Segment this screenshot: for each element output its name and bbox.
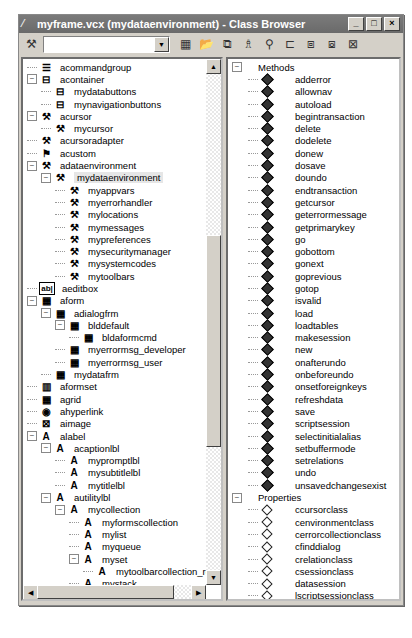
member-item[interactable]: selectinitialalias bbox=[228, 430, 399, 442]
copy-icon[interactable]: ⧈ bbox=[302, 35, 320, 53]
left-vertical-scrollbar[interactable]: ▲ ▼ bbox=[206, 59, 221, 585]
tree-item[interactable]: Amyformscollection bbox=[23, 516, 205, 528]
tree-item[interactable]: −⚒adataenvironment bbox=[23, 159, 205, 171]
member-item[interactable]: cerrorcollectionclass bbox=[228, 528, 399, 540]
member-item[interactable]: gonext bbox=[228, 258, 399, 270]
maximize-button[interactable]: □ bbox=[366, 17, 382, 31]
tree-item[interactable]: −⊟acontainer bbox=[23, 73, 205, 85]
redefine-icon[interactable]: ⊏ bbox=[281, 35, 299, 53]
member-item[interactable]: go bbox=[228, 233, 399, 245]
scroll-up-button[interactable]: ▲ bbox=[206, 59, 221, 74]
expand-toggle-icon[interactable]: − bbox=[55, 320, 65, 330]
tree-item[interactable]: Amytitlelbl bbox=[23, 479, 205, 491]
member-item[interactable]: goprevious bbox=[228, 270, 399, 282]
member-item[interactable]: datasession bbox=[228, 577, 399, 589]
tree-item[interactable]: ⊟mynavigationbuttons bbox=[23, 98, 205, 110]
tree-item[interactable]: Amylist bbox=[23, 528, 205, 540]
tree-item[interactable]: Amyqueue bbox=[23, 541, 205, 553]
expand-toggle-icon[interactable]: − bbox=[41, 173, 51, 183]
tree-item[interactable]: −▦adialogfrm bbox=[23, 307, 205, 319]
expand-toggle-icon[interactable]: − bbox=[69, 554, 79, 564]
member-item[interactable]: isvalid bbox=[228, 295, 399, 307]
tree-item[interactable]: ⚒mytoolbars bbox=[23, 270, 205, 282]
expand-toggle-icon[interactable]: − bbox=[41, 443, 51, 453]
tree-item[interactable]: ▦myerrormsg_user bbox=[23, 356, 205, 368]
tree-item[interactable]: −Amyset bbox=[23, 553, 205, 565]
member-item[interactable]: allownav bbox=[228, 86, 399, 98]
expand-toggle-icon[interactable]: − bbox=[27, 74, 37, 84]
tree-item[interactable]: −▦aform bbox=[23, 295, 205, 307]
tree-item[interactable]: ▦bldaformcmd bbox=[23, 332, 205, 344]
tree-item[interactable]: ⚒mysecuritymanager bbox=[23, 245, 205, 257]
expand-toggle-icon[interactable]: − bbox=[41, 493, 51, 503]
expand-toggle-icon[interactable]: − bbox=[27, 296, 37, 306]
tree-item[interactable]: Amytoolbarcollection_remov bbox=[23, 565, 205, 577]
tree-item[interactable]: −Aacaptionlbl bbox=[23, 442, 205, 454]
member-item[interactable]: endtransaction bbox=[228, 184, 399, 196]
member-item[interactable]: getprimarykey bbox=[228, 221, 399, 233]
tree-item[interactable]: ▥aformset bbox=[23, 381, 205, 393]
tree-item[interactable]: −Amycollection bbox=[23, 504, 205, 516]
tree-item[interactable]: −Aalabel bbox=[23, 430, 205, 442]
member-item[interactable]: cfinddialog bbox=[228, 541, 399, 553]
member-item[interactable]: setrelations bbox=[228, 455, 399, 467]
member-item[interactable]: onsetforeignkeys bbox=[228, 381, 399, 393]
tree-item[interactable]: ⚑acustom bbox=[23, 147, 205, 159]
member-group[interactable]: −Properties bbox=[228, 491, 399, 503]
scroll-right-button[interactable]: ▶ bbox=[191, 585, 206, 600]
find-icon[interactable]: ⚲ bbox=[260, 35, 278, 53]
tree-item[interactable]: −⚒mydataenvironment bbox=[23, 172, 205, 184]
clean-up-icon[interactable]: ⊠ bbox=[344, 35, 362, 53]
collapse-toggle-icon[interactable]: − bbox=[232, 493, 242, 503]
tree-item[interactable]: ▦mydatafrm bbox=[23, 368, 205, 380]
scroll-down-button[interactable]: ▼ bbox=[206, 570, 221, 585]
member-item[interactable]: cenvironmentclass bbox=[228, 516, 399, 528]
minimize-button[interactable]: _ bbox=[348, 17, 364, 31]
tree-item[interactable]: ⚒myerrorhandler bbox=[23, 196, 205, 208]
member-item[interactable]: unsavedchangesexist bbox=[228, 479, 399, 491]
tree-item[interactable]: ⊟mydatabuttons bbox=[23, 86, 205, 98]
tree-item[interactable]: ▦agrid bbox=[23, 393, 205, 405]
tree-item[interactable]: Amysubtitlelbl bbox=[23, 467, 205, 479]
member-item[interactable]: dodelete bbox=[228, 135, 399, 147]
class-type-combo[interactable]: ▼ bbox=[43, 36, 170, 53]
component-gallery-icon[interactable]: ▦ bbox=[176, 35, 194, 53]
member-item[interactable]: lscriptsessionclass bbox=[228, 590, 399, 601]
tree-item[interactable]: ◉ahyperlink bbox=[23, 405, 205, 417]
tree-item[interactable]: ⚒mypreferences bbox=[23, 233, 205, 245]
member-item[interactable]: undo bbox=[228, 467, 399, 479]
close-button[interactable]: × bbox=[384, 17, 400, 31]
expand-toggle-icon[interactable]: − bbox=[27, 431, 37, 441]
tree-item[interactable]: ⚒acursoradapter bbox=[23, 135, 205, 147]
tree-item[interactable]: −▦blddefault bbox=[23, 319, 205, 331]
member-item[interactable]: onafterundo bbox=[228, 356, 399, 368]
tree-item[interactable]: ☰acommandgroup bbox=[23, 61, 205, 73]
expand-toggle-icon[interactable]: − bbox=[27, 111, 37, 121]
member-item[interactable]: geterrormessage bbox=[228, 209, 399, 221]
member-item[interactable]: ccursorclass bbox=[228, 504, 399, 516]
member-item[interactable]: begintransaction bbox=[228, 110, 399, 122]
member-item[interactable]: gobottom bbox=[228, 245, 399, 257]
open-icon[interactable]: 📂 bbox=[197, 35, 215, 53]
member-item[interactable]: setbuffermode bbox=[228, 442, 399, 454]
member-item[interactable]: load bbox=[228, 307, 399, 319]
member-item[interactable]: getcursor bbox=[228, 196, 399, 208]
member-item[interactable]: crelationclass bbox=[228, 553, 399, 565]
member-item[interactable]: dosave bbox=[228, 159, 399, 171]
left-horizontal-scrollbar[interactable]: ◀ ▶ bbox=[23, 585, 206, 599]
tree-item[interactable]: ab|aeditbox bbox=[23, 282, 205, 294]
chevron-down-icon[interactable]: ▼ bbox=[154, 37, 169, 52]
tree-item[interactable]: ⚒mycursor bbox=[23, 122, 205, 134]
view-additional-icon[interactable]: ⧉ bbox=[218, 35, 236, 53]
collapse-toggle-icon[interactable]: − bbox=[232, 62, 242, 72]
member-item[interactable]: gotop bbox=[228, 282, 399, 294]
member-item[interactable]: autoload bbox=[228, 98, 399, 110]
member-item[interactable]: adderror bbox=[228, 73, 399, 85]
member-item[interactable]: new bbox=[228, 344, 399, 356]
tree-item[interactable]: Amypromptlbl bbox=[23, 455, 205, 467]
tree-item[interactable]: −Aautilitylbl bbox=[23, 491, 205, 503]
tree-item[interactable]: ⚒mymessages bbox=[23, 221, 205, 233]
expand-toggle-icon[interactable]: − bbox=[41, 308, 51, 318]
member-item[interactable]: donew bbox=[228, 147, 399, 159]
tree-item[interactable]: ▦myerrormsg_developer bbox=[23, 344, 205, 356]
